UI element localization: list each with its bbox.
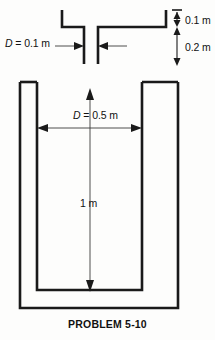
pipe-diameter-value: 0.1 m bbox=[24, 37, 50, 49]
pipe-left-wall bbox=[62, 10, 84, 64]
pipe-assembly bbox=[62, 10, 166, 64]
tank-diameter-label: D = 0.5 m bbox=[73, 110, 118, 121]
figure-container: D = 0.1 m 0.1 m 0.2 m D = 0.5 m 1 m PROB… bbox=[0, 0, 215, 340]
tank-diagram bbox=[0, 0, 215, 340]
pipe-diameter-dimension bbox=[55, 42, 127, 50]
tank-diameter-value: 0.5 m bbox=[92, 109, 118, 121]
pipe-diameter-equals: = bbox=[12, 37, 24, 49]
tank-diameter-equals: = bbox=[80, 109, 92, 121]
tank-diameter-dimension bbox=[37, 124, 142, 132]
pipe-diameter-label: D = 0.1 m bbox=[5, 38, 50, 49]
pipe-lower-height-label: 0.2 m bbox=[185, 42, 211, 53]
pipe-height-dimensions bbox=[172, 10, 182, 66]
tank-depth-label: 1 m bbox=[80, 198, 97, 209]
figure-caption: PROBLEM 5-10 bbox=[0, 318, 215, 330]
pipe-right-wall bbox=[98, 10, 166, 64]
pipe-upper-height-label: 0.1 m bbox=[185, 15, 211, 26]
